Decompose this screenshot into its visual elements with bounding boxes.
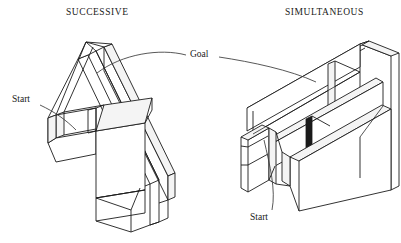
simultaneous-start-chamber-inner-d [241, 146, 248, 147]
successive-maze-drawing [48, 42, 175, 232]
successive-return-arm-edge-b [48, 59, 78, 118]
goal-label: Goal [190, 50, 208, 60]
successive-bottom-wall-edge-2 [159, 200, 168, 222]
simultaneous-front-left-cap [282, 152, 290, 186]
maze-figure: SUCCESSIVE SIMULTANEOUS Goal Start Start [0, 0, 401, 243]
start-label-simultaneous: Start [250, 213, 268, 223]
successive-return-arm-inner-top [64, 47, 93, 112]
simultaneous-gate-slot [269, 128, 276, 184]
maze-drawing-canvas [0, 0, 401, 243]
simultaneous-right-wall-outer-edge [391, 53, 399, 190]
start-label-successive: Start [12, 95, 30, 105]
simultaneous-maze-drawing [241, 41, 399, 211]
successive-return-arm-inner-wall [56, 112, 64, 138]
successive-long-arm-end-cap [168, 173, 175, 200]
successive-bottom-wall-edge [150, 203, 159, 225]
successive-start-chamber-rim-b [64, 105, 104, 112]
successive-return-arm-edge-c [56, 42, 86, 115]
panel-caption-simultaneous: SIMULTANEOUS [285, 8, 364, 18]
successive-center-block-front [96, 123, 145, 198]
successive-bottom-wall-edge-3 [150, 222, 159, 225]
simultaneous-front-wall-inner-edge [290, 157, 299, 211]
panel-caption-successive: SUCCESSIVE [66, 8, 129, 18]
simultaneous-start-chamber-left [241, 137, 248, 192]
successive-long-arm-channel-bottom [150, 180, 159, 184]
successive-long-arm-inner-wall-base [159, 200, 168, 203]
successive-start-chamber-left [48, 115, 56, 143]
